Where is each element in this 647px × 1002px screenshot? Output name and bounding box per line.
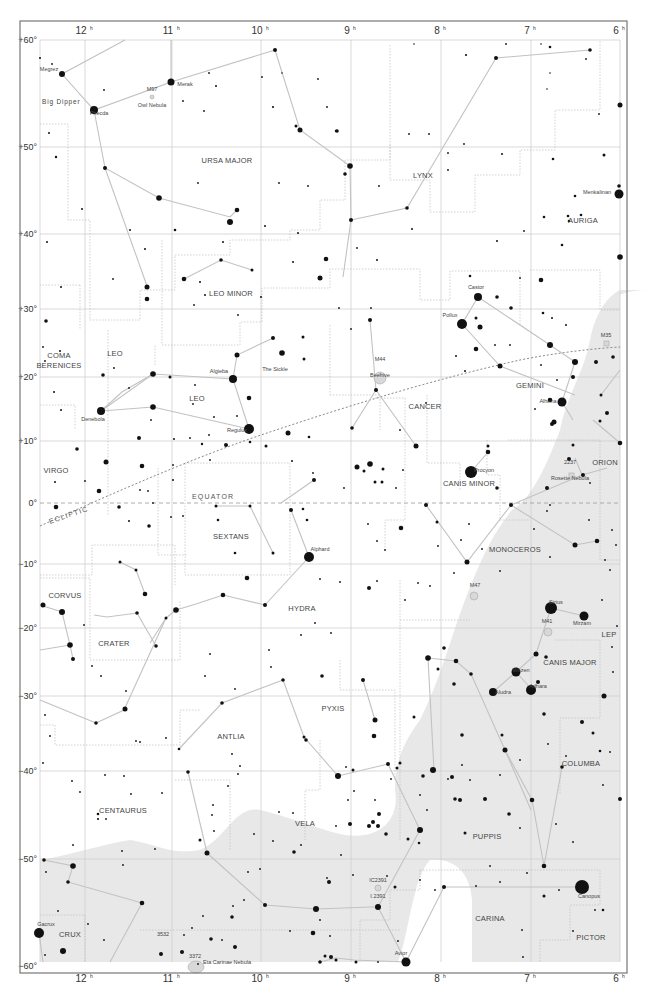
ra-tick-unit: h <box>353 25 356 31</box>
star-name-label: Alphard <box>311 546 330 552</box>
ra-tick-label: 6 <box>613 25 619 36</box>
milky-way-band <box>40 290 647 962</box>
m35-cluster-icon <box>604 341 609 346</box>
dec-tick-label: −60° <box>18 961 37 971</box>
dso-id-label: M97 <box>147 86 158 92</box>
star-name-label: Pollux <box>443 312 458 318</box>
star-name-label: Procyon <box>474 467 494 473</box>
ic2391-cluster-icon <box>375 885 381 891</box>
dso-id-label: M44 <box>375 356 386 362</box>
ra-axis-bottom: 12h11h10h9h8h7h6h <box>75 973 625 984</box>
constellation-label: URSA MAJOR <box>202 156 253 165</box>
dso-name-label: Beehive <box>370 372 390 378</box>
ra-tick-unit: h <box>90 25 93 31</box>
dso-id-label: M41 <box>542 618 553 624</box>
dec-tick-label: +10° <box>18 436 37 446</box>
star-name-label: Canopus <box>578 893 600 899</box>
ra-tick-unit: h <box>443 973 446 979</box>
dec-tick-label: −50° <box>18 854 37 864</box>
named-star-dot <box>457 319 467 329</box>
dso-id-label: 2237 <box>564 459 576 465</box>
ra-tick-label: 12 <box>75 973 87 984</box>
constellation-label: LYNX <box>413 171 433 180</box>
constellation-label: CARINA <box>475 914 505 923</box>
star-name-label: Regulus <box>227 427 247 433</box>
ra-axis-top: 12h11h10h9h8h7h6h <box>75 25 625 36</box>
named-star-dot <box>304 552 314 562</box>
constellation-label: ORION <box>592 458 618 467</box>
constellation-label: PUPPIS <box>473 832 502 841</box>
constellation-label: PYXIS <box>321 704 344 713</box>
named-star-dot <box>615 190 624 199</box>
dso-name-label: I.2391 <box>370 893 385 899</box>
constellation-label: CRUX <box>59 930 81 939</box>
eta-carinae-nebula-icon <box>188 961 204 973</box>
dec-tick-label: −20° <box>18 623 37 633</box>
ra-tick-unit: h <box>622 973 625 979</box>
dec-tick-label: +60° <box>18 35 37 45</box>
dec-tick-label: +50° <box>18 142 37 152</box>
constellation-label: LEO <box>107 349 123 358</box>
constellation-label: LEO MINOR <box>209 289 253 298</box>
constellation-label: CENTAURUS <box>99 806 147 815</box>
star-name-label: Mirzam <box>573 620 591 626</box>
star-name-label: Wezen <box>512 667 529 673</box>
ra-tick-label: 8 <box>434 973 440 984</box>
ra-tick-label: 9 <box>344 25 350 36</box>
m41-cluster-icon <box>544 628 552 636</box>
named-star-dot <box>97 407 105 415</box>
dso-id-label: M35 <box>601 332 612 338</box>
constellation-label: MONOCEROS <box>489 545 541 554</box>
equator-label: EQUATOR <box>192 493 234 501</box>
star-name-label: Phecda <box>90 110 110 116</box>
constellation-label: GEMINI <box>516 381 544 390</box>
star-name-label: Aludra <box>495 689 512 695</box>
ra-tick-unit: h <box>266 25 269 31</box>
ra-tick-label: 10 <box>251 973 263 984</box>
dso-id-label: 3532 <box>157 931 169 937</box>
dec-tick-label: −30° <box>18 691 37 701</box>
dso-name-label: Eta Carinae Nebula <box>203 959 252 965</box>
constellation-label: VELA <box>295 819 315 828</box>
ra-tick-unit: h <box>266 973 269 979</box>
constellation-label: AURIGA <box>568 216 598 225</box>
m47-cluster-icon <box>470 592 478 600</box>
ra-tick-label: 12 <box>75 25 87 36</box>
dec-tick-label: +20° <box>18 372 37 382</box>
ra-tick-label: 11 <box>163 973 174 984</box>
dec-tick-label: 0° <box>28 498 37 508</box>
star-name-label: Sirius <box>549 599 563 605</box>
constellation-label: COMA <box>47 351 70 360</box>
star-name-label: Avior <box>395 950 408 956</box>
ra-tick-unit: h <box>622 25 625 31</box>
ra-tick-unit: h <box>90 973 93 979</box>
ra-tick-unit: h <box>177 25 180 31</box>
star-name-label: Denebola <box>81 416 105 422</box>
constellation-label: PICTOR <box>576 933 606 942</box>
named-star-dot <box>402 958 411 967</box>
ra-tick-label: 11 <box>163 25 174 36</box>
star-name-label: Menkalinan <box>583 189 611 195</box>
constellation-label: LEO <box>189 394 205 403</box>
constellation-label: VIRGO <box>43 466 68 475</box>
star-chart: EQUATOR ECLIPTIC <box>0 0 647 1002</box>
star-name-label: Merak <box>177 81 193 87</box>
dec-tick-label: +40° <box>18 229 37 239</box>
dso-id-label: 3372 <box>189 953 201 959</box>
ra-tick-label: 7 <box>524 973 530 984</box>
ra-tick-label: 7 <box>524 25 530 36</box>
dso-id-label: IC2391 <box>369 877 387 883</box>
ra-tick-unit: h <box>353 973 356 979</box>
named-star-dot <box>168 79 175 86</box>
constellation-label: CORVUS <box>48 591 81 600</box>
constellation-label: CRATER <box>98 639 130 648</box>
dso-name-label: Owl Nebula <box>138 102 167 108</box>
owl-nebula-icon <box>150 95 154 99</box>
ra-tick-label: 6 <box>613 973 619 984</box>
big-dipper-label: Big Dipper <box>42 98 80 106</box>
named-star-dot <box>558 398 567 407</box>
ra-tick-label: 8 <box>434 25 440 36</box>
star-name-label: Alhena <box>539 398 557 404</box>
star-name-label: Castor <box>468 284 484 290</box>
constellation-label: SEXTANS <box>213 532 249 541</box>
